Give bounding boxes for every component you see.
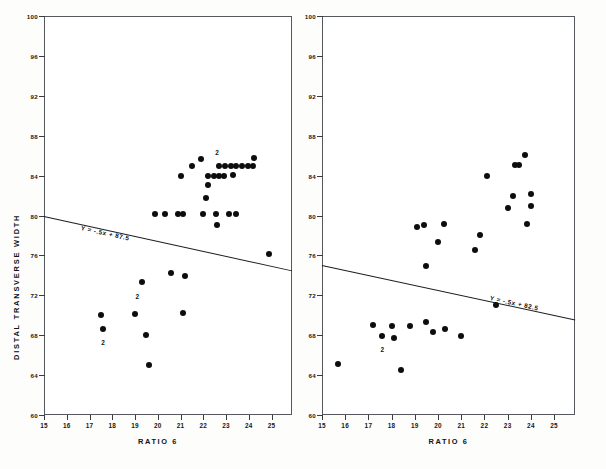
y-tick-label: 92 — [14, 92, 38, 99]
data-point — [516, 162, 522, 168]
x-tick-label: 21 — [177, 422, 185, 429]
x-tick-mark — [272, 415, 273, 420]
point-count-label: 2 — [215, 148, 219, 155]
y-tick-label: 92 — [292, 92, 316, 99]
data-point — [168, 270, 174, 276]
x-tick-label: 24 — [245, 422, 253, 429]
y-tick-mark — [317, 335, 323, 336]
x-tick-mark — [67, 415, 68, 420]
y-tick-mark — [39, 255, 45, 256]
y-tick-label: 80 — [292, 212, 316, 219]
y-tick-mark — [317, 255, 323, 256]
data-point — [198, 156, 204, 162]
x-tick-label: 23 — [222, 422, 230, 429]
y-tick-label: 88 — [14, 132, 38, 139]
data-point — [221, 173, 227, 179]
y-tick-mark — [317, 96, 323, 97]
data-point — [441, 221, 447, 227]
y-tick-mark — [39, 56, 45, 57]
y-tick-mark — [317, 16, 323, 17]
y-tick-mark — [317, 136, 323, 137]
x-tick-label: 17 — [365, 422, 373, 429]
data-point — [398, 367, 404, 373]
data-point — [442, 326, 448, 332]
data-point — [335, 361, 341, 367]
data-point — [477, 232, 483, 238]
x-tick-mark — [368, 415, 369, 420]
data-point — [100, 326, 106, 332]
x-tick-mark — [90, 415, 91, 420]
x-tick-mark — [415, 415, 416, 420]
y-tick-label: 64 — [292, 372, 316, 379]
data-point — [524, 221, 530, 227]
y-tick-label: 84 — [292, 172, 316, 179]
x-tick-label: 23 — [504, 422, 512, 429]
data-point — [98, 312, 104, 318]
data-point — [414, 224, 420, 230]
y-tick-label: 84 — [14, 172, 38, 179]
data-point — [132, 311, 138, 317]
y-tick-mark — [39, 335, 45, 336]
data-point — [423, 319, 429, 325]
x-tick-mark — [345, 415, 346, 420]
x-axis-title-left: RATIO 6 — [138, 437, 178, 446]
data-point — [182, 273, 188, 279]
y-tick-label: 100 — [14, 13, 38, 20]
data-point — [430, 329, 436, 335]
y-tick-label: 64 — [14, 372, 38, 379]
data-point — [139, 279, 145, 285]
data-point — [423, 263, 429, 269]
x-tick-mark — [392, 415, 393, 420]
x-tick-label: 18 — [388, 422, 396, 429]
y-tick-label: 88 — [292, 132, 316, 139]
x-tick-mark — [249, 415, 250, 420]
x-tick-label: 24 — [527, 422, 535, 429]
x-tick-mark — [322, 415, 323, 420]
data-point — [370, 322, 376, 328]
data-point — [226, 211, 232, 217]
x-tick-mark — [181, 415, 182, 420]
x-tick-mark — [484, 415, 485, 420]
data-point — [180, 310, 186, 316]
x-tick-mark — [203, 415, 204, 420]
x-axis-title-right: RATIO 6 — [429, 437, 469, 446]
y-tick-label: 60 — [292, 412, 316, 419]
data-point — [213, 211, 219, 217]
data-point — [484, 173, 490, 179]
y-tick-mark — [317, 375, 323, 376]
x-tick-label: 22 — [481, 422, 489, 429]
x-tick-label: 16 — [341, 422, 349, 429]
data-point — [522, 152, 528, 158]
figure-root: 6064687276808488929610015161718192021222… — [0, 0, 606, 469]
y-tick-mark — [39, 16, 45, 17]
scatter-panel-left: 6064687276808488929610015161718192021222… — [0, 0, 303, 469]
x-tick-mark — [438, 415, 439, 420]
x-tick-mark — [508, 415, 509, 420]
data-point — [146, 362, 152, 368]
data-point — [251, 155, 257, 161]
y-tick-mark — [39, 295, 45, 296]
x-tick-label: 25 — [268, 422, 276, 429]
x-tick-label: 16 — [63, 422, 71, 429]
data-point — [528, 203, 534, 209]
data-point — [528, 191, 534, 197]
x-tick-label: 18 — [108, 422, 116, 429]
y-tick-mark — [317, 56, 323, 57]
data-point — [493, 302, 499, 308]
point-count-label: 2 — [381, 346, 385, 353]
x-tick-label: 22 — [199, 422, 207, 429]
data-point — [143, 332, 149, 338]
x-tick-mark — [44, 415, 45, 420]
plot-frame-left — [44, 16, 292, 415]
y-tick-label: 76 — [292, 252, 316, 259]
x-tick-mark — [158, 415, 159, 420]
data-point — [407, 323, 413, 329]
x-tick-label: 25 — [550, 422, 558, 429]
data-point — [162, 211, 168, 217]
x-tick-label: 15 — [40, 422, 48, 429]
data-point — [391, 335, 397, 341]
y-tick-mark — [317, 176, 323, 177]
data-point — [510, 193, 516, 199]
y-axis-title: DISTAL TRANSVERSE WIDTH — [12, 214, 21, 360]
x-tick-mark — [531, 415, 532, 420]
